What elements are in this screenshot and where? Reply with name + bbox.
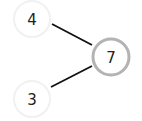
part-node-4-label: 4 — [27, 11, 37, 29]
whole-node-7-label: 7 — [106, 49, 116, 67]
edge-3-to-7 — [51, 66, 92, 87]
part-node-4: 4 — [14, 1, 50, 37]
part-node-3-label: 3 — [27, 91, 37, 109]
edge-4-to-7 — [52, 24, 92, 45]
part-node-3: 3 — [14, 81, 50, 117]
number-bond-diagram: 4 3 7 — [0, 0, 142, 121]
whole-node-7: 7 — [93, 39, 129, 75]
